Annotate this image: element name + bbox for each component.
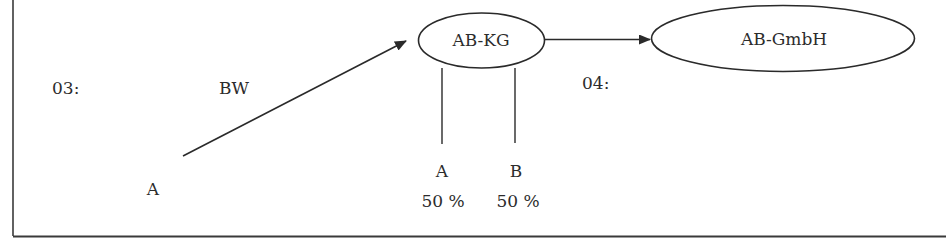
shareholder-a-name: A — [436, 163, 448, 180]
gmbh-node-label: AB-GmbH — [741, 31, 827, 48]
step-03-label: 03: — [52, 80, 79, 97]
transfer-label: BW — [219, 80, 249, 97]
shareholder-b-name: B — [510, 163, 523, 180]
shareholder-b-share: 50 % — [496, 193, 539, 210]
step-04-label: 04: — [582, 75, 609, 92]
transfer-arrow — [183, 41, 406, 156]
kg-node-label: AB-KG — [452, 32, 509, 49]
shareholder-a-share: 50 % — [421, 193, 464, 210]
diagram-frame: AB-KG AB-GmbH 03: 04: BW A A 50 % B 50 % — [0, 0, 946, 239]
transfer-origin-label: A — [147, 181, 159, 198]
